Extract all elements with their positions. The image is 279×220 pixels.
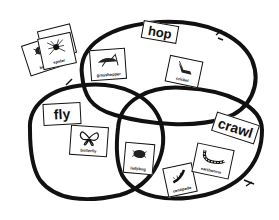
sketch-mark <box>66 79 72 85</box>
venn-diagram: beetle spider hop grasshopper cricket fl… <box>0 0 279 220</box>
ladybug-icon <box>130 146 149 160</box>
card-label: grasshopper <box>92 71 126 78</box>
centipede-icon <box>169 167 190 184</box>
grasshopper-icon <box>95 52 120 68</box>
card-label: butterfly <box>70 147 106 154</box>
butterfly-icon <box>78 129 101 146</box>
cricket-icon <box>174 60 196 76</box>
card-grasshopper[interactable]: grasshopper <box>89 48 127 81</box>
spider-icon <box>46 37 67 56</box>
set-label-fly: fly <box>42 102 81 126</box>
sketch-mark <box>244 180 254 186</box>
card-butterfly[interactable]: butterfly <box>69 125 109 158</box>
card-ladybug[interactable]: ladybug <box>123 142 156 175</box>
card-label: ladybug <box>124 165 152 172</box>
